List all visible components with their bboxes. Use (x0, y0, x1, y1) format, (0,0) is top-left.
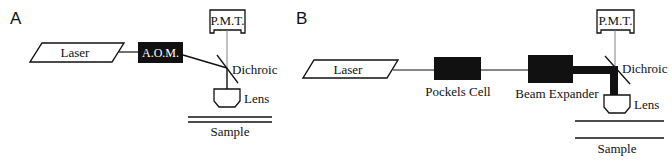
beam-expander-label: Beam Expander (515, 86, 599, 101)
pockels-cell (434, 57, 481, 80)
dichroic-a-label: Dichroic (232, 62, 278, 77)
dichroic-b-label: Dichroic (622, 61, 668, 76)
pockels-cell-label: Pockels Cell (425, 84, 491, 99)
aom-a-label: A.O.M. (142, 46, 179, 60)
lens-b (604, 95, 630, 113)
pmt-b: P.M.T. (597, 10, 634, 33)
expanded-beam-vertical (610, 66, 618, 96)
panel-a-label: A (10, 9, 22, 28)
panel-b: B Laser Pockels Cell Beam Expander P.M.T… (296, 9, 668, 156)
laser-a: Laser (30, 43, 124, 62)
panel-b-label: B (296, 9, 307, 28)
beam-expander (528, 55, 573, 83)
pmt-b-label: P.M.T. (598, 13, 632, 28)
laser-a-label: Laser (61, 45, 91, 60)
panel-a: A Laser A.O.M. P.M.T. Dichroic Lens (10, 9, 278, 139)
beam-aom-dichroic (183, 55, 227, 68)
laser-b-label: Laser (334, 62, 364, 77)
lens-a-label: Lens (244, 91, 269, 106)
sample-a-label: Sample (211, 124, 250, 139)
pmt-a: P.M.T. (210, 10, 245, 33)
sample-b-label: Sample (598, 141, 637, 156)
aom-a: A.O.M. (138, 42, 183, 63)
laser-b: Laser (303, 60, 398, 78)
pmt-a-label: P.M.T. (210, 13, 244, 28)
lens-b-label: Lens (634, 97, 659, 112)
optical-setup-diagram: A Laser A.O.M. P.M.T. Dichroic Lens (0, 0, 672, 161)
lens-a (214, 89, 240, 107)
